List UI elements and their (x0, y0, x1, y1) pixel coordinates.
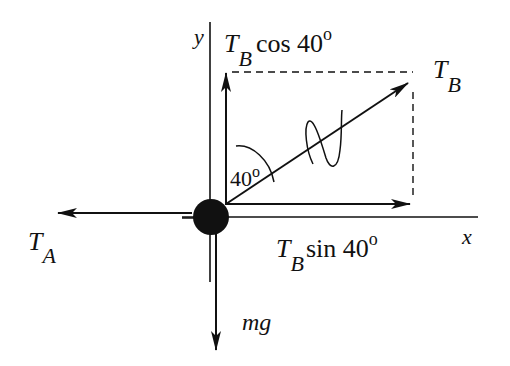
angle-label: 40o (230, 163, 260, 191)
tb-label: TB (433, 55, 461, 97)
ta-label: TA (28, 227, 56, 268)
x-axis-label: x (461, 224, 472, 249)
y-axis-label: y (192, 24, 204, 49)
tb-arrow (226, 83, 408, 204)
mass-ball (193, 199, 229, 235)
free-body-diagram: y x TBcos 40o TB 40o TA TBsin 40o mg (0, 0, 510, 366)
weight-label: mg (242, 309, 271, 335)
tb-cos-label: TBcos 40o (224, 24, 332, 71)
tb-sin-label: TBsin 40o (276, 229, 378, 276)
